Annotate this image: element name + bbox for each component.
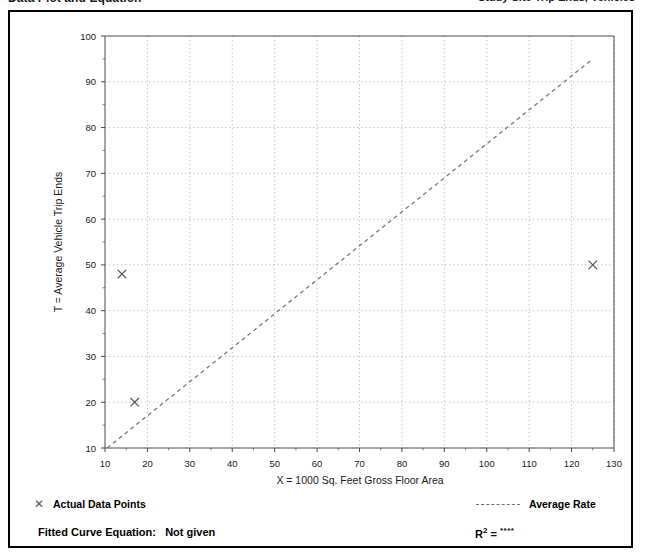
- chart-container: 102030405060708090100110120130 102030405…: [10, 12, 631, 546]
- r-squared-equals: =: [490, 528, 496, 540]
- fitted-curve-value: Not given: [165, 526, 215, 538]
- y-tick-label: 90: [85, 76, 96, 87]
- y-tick-label: 100: [80, 31, 96, 42]
- x-tick-label: 80: [397, 458, 408, 469]
- x-tick-label: 30: [185, 458, 196, 469]
- header-subtitle: Study Site Trip Ends, Vehicles: [478, 0, 635, 3]
- legend-label-actual-points: Actual Data Points: [53, 498, 146, 510]
- r-squared: R2 = ****: [475, 526, 514, 540]
- header-strip: Data Plot and Equation Study Site Trip E…: [0, 0, 647, 9]
- fitted-curve-equation: Fitted Curve Equation: Not given: [38, 526, 215, 538]
- y-tick-label: 70: [85, 168, 96, 179]
- y-tick-label: 60: [85, 214, 96, 225]
- y-tick-label: 10: [85, 443, 96, 454]
- r-squared-label: R: [475, 528, 483, 540]
- y-axis-title: T = Average Vehicle Trip Ends: [52, 172, 64, 313]
- x-tick-label: 10: [100, 458, 111, 469]
- x-tick-label: 120: [564, 458, 580, 469]
- legend-label-average-rate: Average Rate: [529, 498, 596, 510]
- y-tick-label: 30: [85, 351, 96, 362]
- legend-item-average-rate: Average Rate: [476, 498, 596, 510]
- legend-item-actual-points: ✕ Actual Data Points: [34, 498, 146, 510]
- dashed-line-icon: [476, 504, 520, 505]
- y-tick-label: 20: [85, 397, 96, 408]
- x-tick-labels: 102030405060708090100110120130: [100, 458, 622, 469]
- x-tick-label: 40: [227, 458, 238, 469]
- y-tick-label: 40: [85, 305, 96, 316]
- x-tick-label: 50: [269, 458, 280, 469]
- chart-frame: 102030405060708090100110120130 102030405…: [8, 10, 633, 548]
- x-tick-label: 130: [606, 458, 622, 469]
- page-title: Data Plot and Equation: [8, 0, 142, 5]
- y-tick-label: 50: [85, 259, 96, 270]
- x-tick-label: 70: [354, 458, 365, 469]
- scatter-plot: 102030405060708090100110120130 102030405…: [10, 12, 631, 546]
- x-axis-title: X = 1000 Sq. Feet Gross Floor Area: [276, 474, 443, 486]
- r-squared-exponent: 2: [483, 526, 487, 535]
- x-tick-label: 90: [439, 458, 450, 469]
- fitted-curve-label: Fitted Curve Equation:: [38, 526, 156, 538]
- y-tick-labels: 102030405060708090100: [80, 31, 96, 454]
- axis-ticks: [101, 36, 614, 452]
- x-tick-label: 20: [142, 458, 153, 469]
- r-squared-value: ****: [500, 526, 514, 535]
- x-tick-label: 110: [522, 458, 537, 469]
- data-point-marker: [118, 270, 126, 278]
- average-rate-line: [107, 59, 593, 448]
- chart-legend: ✕ Actual Data Points Average Rate: [10, 494, 631, 520]
- chart-footer: Fitted Curve Equation: Not given R2 = **…: [10, 524, 631, 548]
- x-marker-icon: ✕: [34, 498, 44, 510]
- x-tick-label: 60: [312, 458, 323, 469]
- gridlines: [105, 36, 614, 448]
- x-tick-label: 100: [479, 458, 495, 469]
- y-tick-label: 80: [85, 122, 96, 133]
